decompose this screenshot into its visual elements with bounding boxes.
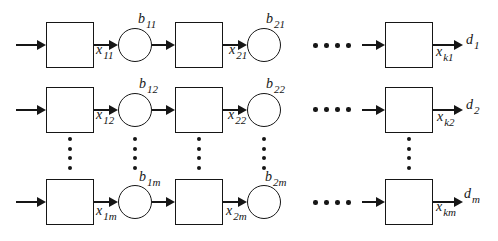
block-rowm-col1 [46, 179, 94, 225]
arrow-input-row1 [16, 40, 46, 50]
arrow-row2-node1-block2 [152, 105, 175, 115]
block-row2-colk [385, 87, 433, 133]
label-sub: 21 [236, 49, 247, 61]
label-main: x [96, 203, 102, 218]
arrow-input-row2 [16, 105, 46, 115]
arrow-head-icon [454, 105, 463, 115]
block-row1-col2 [175, 22, 223, 68]
label-sub: 12 [147, 83, 158, 95]
arrow-head-icon [376, 197, 385, 207]
label-b1m: b1m [139, 170, 160, 184]
label-x11: x11 [96, 43, 113, 57]
label-x22: x22 [228, 108, 246, 122]
dot [133, 166, 137, 170]
dot [262, 137, 266, 141]
dot [133, 156, 137, 160]
label-sub: 21 [274, 18, 285, 30]
dot [335, 200, 340, 205]
label-main: b [266, 11, 273, 26]
label-sub: 1m [103, 210, 116, 222]
dot [346, 200, 351, 205]
arrow-row2-dots-blockk [362, 105, 385, 115]
label-xk2: xk2 [437, 110, 455, 124]
dot [335, 107, 340, 112]
label-sub: 1m [147, 176, 160, 188]
node-b2m [247, 185, 281, 219]
label-sub: 22 [274, 83, 285, 95]
dot [313, 200, 318, 205]
label-xkm: xkm [436, 200, 456, 214]
label-sub: k2 [444, 116, 454, 128]
dot [197, 166, 201, 170]
arrow-head-icon [376, 105, 385, 115]
ellipsis-vertical-col4 [262, 137, 266, 170]
dot [335, 43, 340, 48]
dot [407, 147, 411, 151]
label-sub: 11 [146, 18, 156, 30]
node-b12 [118, 93, 152, 127]
arrow-input-rowm [16, 197, 46, 207]
block-row2-col1 [46, 87, 94, 133]
label-main: b [138, 11, 145, 26]
label-main: x [436, 44, 442, 59]
block-rowm-colk [385, 179, 433, 225]
block-rowm-col2 [175, 179, 223, 225]
label-d1: d1 [466, 33, 480, 47]
label-sub: k1 [443, 51, 453, 63]
arrow-head-icon [166, 40, 175, 50]
label-b11: b11 [138, 12, 156, 26]
ellipsis-vertical-colk [407, 137, 411, 170]
dot [68, 156, 72, 160]
ellipsis-horizontal-rowm [313, 200, 351, 205]
arrow-rowm-dots-blockk [362, 197, 385, 207]
label-b2m: b2m [265, 170, 286, 184]
dot [313, 107, 318, 112]
label-sub: m [472, 193, 480, 205]
label-main: b [139, 169, 146, 184]
label-sub: 22 [235, 114, 246, 126]
block-row1-col1 [46, 22, 94, 68]
dot [133, 137, 137, 141]
label-dm: dm [464, 187, 480, 201]
arrow-head-icon [37, 40, 46, 50]
arrow-head-icon [376, 40, 385, 50]
dot [324, 200, 329, 205]
ellipsis-vertical-col3 [197, 137, 201, 170]
arrow-head-icon [454, 40, 463, 50]
label-main: d [466, 97, 473, 112]
label-main: b [265, 169, 272, 184]
dot [346, 107, 351, 112]
label-main: x [228, 107, 234, 122]
label-x2m: x2m [226, 204, 247, 218]
node-b22 [247, 93, 281, 127]
label-sub: km [443, 206, 456, 218]
label-sub: 1 [474, 39, 480, 51]
arrow-shaft [16, 201, 39, 203]
node-b21 [247, 28, 281, 62]
label-b22: b22 [266, 77, 285, 91]
label-x1m: x1m [96, 204, 117, 218]
dot [313, 43, 318, 48]
node-b1m [118, 185, 152, 219]
block-row2-col2 [175, 87, 223, 133]
label-main: x [436, 199, 442, 214]
label-b12: b12 [139, 77, 158, 91]
ellipsis-vertical-col2 [133, 137, 137, 170]
arrow-head-icon [166, 105, 175, 115]
label-xk1: xk1 [436, 45, 454, 59]
label-main: b [139, 76, 146, 91]
arrow-head-icon [37, 197, 46, 207]
dot [68, 166, 72, 170]
dot [346, 43, 351, 48]
dot [407, 166, 411, 170]
dot [197, 147, 201, 151]
dot [197, 156, 201, 160]
label-main: x [229, 42, 235, 57]
arrow-row1-node1-block2 [152, 40, 175, 50]
ellipsis-horizontal-row2 [313, 107, 351, 112]
arrow-shaft [16, 109, 39, 111]
dot [133, 147, 137, 151]
label-main: b [266, 76, 273, 91]
label-b21: b21 [266, 12, 285, 26]
label-sub: 2 [474, 104, 480, 116]
